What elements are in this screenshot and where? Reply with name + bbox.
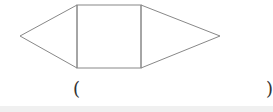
answer-blank[interactable] [85,80,260,100]
answer-open-paren: ( [73,80,80,98]
left-triangle [20,5,77,68]
bottom-divider [0,106,273,112]
answer-close-paren: ) [266,80,273,98]
right-triangle [141,5,220,68]
center-square [77,5,141,68]
